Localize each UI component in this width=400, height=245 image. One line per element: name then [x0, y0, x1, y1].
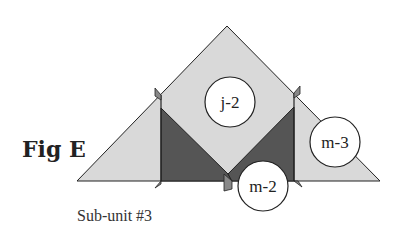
flap-top-left	[155, 88, 161, 100]
flap-top-right	[294, 86, 300, 98]
flap-bottom-left	[155, 181, 161, 188]
label-circle-top: j-2	[205, 77, 255, 127]
label-top: j-2	[220, 93, 240, 112]
flap-bottom-right	[294, 181, 302, 187]
diagram-canvas: j-2 m-3 m-2	[0, 0, 400, 245]
label-right: m-3	[321, 133, 348, 152]
label-bottom: m-2	[249, 177, 276, 196]
figure-title: Fig E	[22, 136, 86, 162]
label-circle-right: m-3	[310, 117, 360, 167]
label-circle-bottom: m-2	[238, 161, 288, 211]
figure-caption: Sub-unit #3	[77, 207, 152, 225]
